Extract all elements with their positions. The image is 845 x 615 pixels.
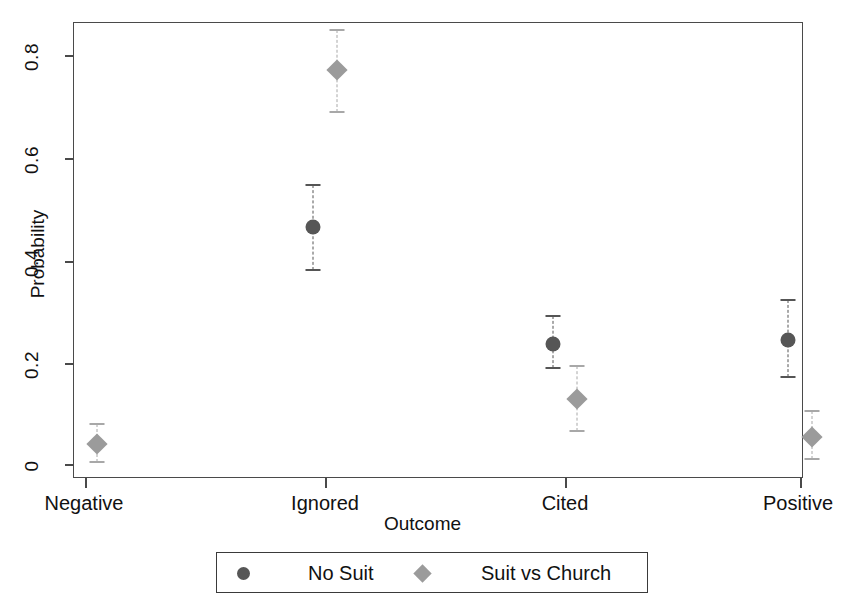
error-bar-cap-cited-0-low [546, 367, 561, 369]
error-bar-cap-cited-1-low [570, 430, 585, 432]
error-bar-cap-positive-1-low [805, 458, 820, 460]
error-bar-cap-ignored-1-low [330, 111, 345, 113]
y-tick-label-0: 0 [21, 448, 43, 484]
data-point-positive-suit-vs-church [801, 427, 822, 448]
data-point-ignored-no-suit [306, 219, 321, 234]
legend-entry-no-suit: No Suit [237, 553, 374, 594]
x-tick-label-negative: Negative [45, 492, 124, 515]
error-bar-cap-positive-1-high [805, 410, 820, 412]
y-tick-mark-0-4 [65, 261, 73, 263]
error-bar-cap-cited-0-high [546, 315, 561, 317]
probability-by-outcome-chart: 0 0.2 0.4 0.6 0.8 Probability Negative I… [0, 0, 845, 615]
x-tick-mark-ignored [325, 478, 327, 488]
legend-label-no-suit: No Suit [308, 562, 374, 585]
error-bar-cap-positive-0-high [781, 299, 796, 301]
y-axis-title: Probability [27, 169, 49, 339]
x-tick-label-cited: Cited [542, 492, 589, 515]
x-tick-mark-positive [800, 478, 802, 488]
legend-entry-suit-vs-church: Suit vs Church [416, 553, 611, 594]
x-tick-mark-cited [565, 478, 567, 488]
error-bar-cap-ignored-0-high [306, 184, 321, 186]
error-bar-cap-ignored-1-high [330, 29, 345, 31]
x-axis-title: Outcome [0, 513, 845, 535]
data-point-cited-no-suit [546, 336, 561, 351]
legend-label-suit-vs-church: Suit vs Church [481, 562, 611, 585]
y-tick-label-0-8: 0.8 [21, 27, 43, 87]
x-tick-label-positive: Positive [763, 492, 833, 515]
diamond-marker-icon [413, 564, 431, 582]
error-bar-cap-negative-1-high [90, 423, 105, 425]
caption-sliver [250, 600, 630, 614]
plot-area [73, 22, 803, 478]
error-bar-cap-cited-1-high [570, 365, 585, 367]
x-tick-label-ignored: Ignored [291, 492, 359, 515]
error-bar-cap-positive-0-low [781, 376, 796, 378]
y-tick-mark-0-8 [65, 55, 73, 57]
legend: No Suit Suit vs Church [216, 552, 648, 593]
y-tick-mark-0-6 [65, 158, 73, 160]
error-bar-cap-ignored-0-low [306, 269, 321, 271]
y-tick-mark-0 [65, 464, 73, 466]
data-point-positive-no-suit [781, 333, 796, 348]
circle-marker-icon [237, 567, 250, 580]
y-tick-label-0-2: 0.2 [21, 335, 43, 395]
y-tick-mark-0-2 [65, 363, 73, 365]
x-tick-mark-negative [85, 478, 87, 488]
error-bar-cap-negative-1-low [90, 461, 105, 463]
